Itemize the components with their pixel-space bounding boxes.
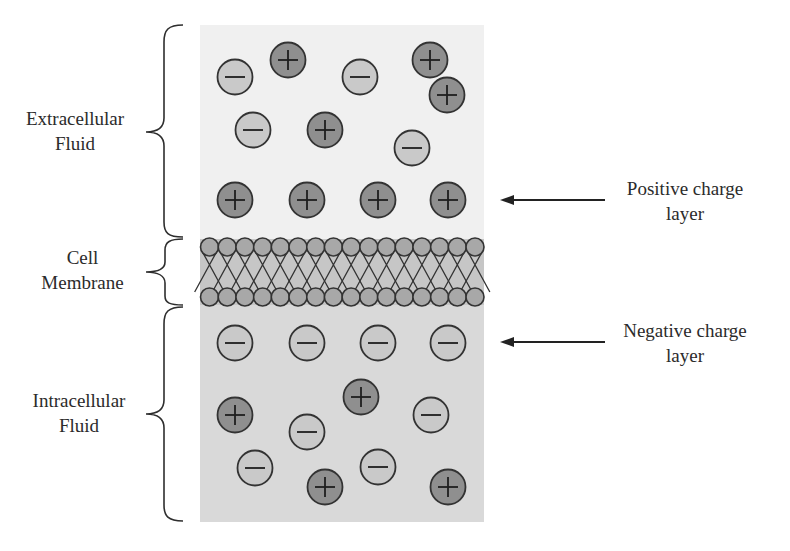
lipid-head-icon (413, 238, 431, 256)
positive-ion-icon (308, 470, 343, 505)
lipid-head-icon (307, 288, 325, 306)
lipid-head-icon (236, 238, 254, 256)
lipid-head-icon (271, 238, 289, 256)
lipid-head-icon (360, 238, 378, 256)
positive-ion-icon (413, 43, 448, 78)
label-line: layer (605, 343, 765, 368)
lipid-head-icon (378, 288, 396, 306)
negative-ion-icon (290, 326, 325, 361)
lipid-head-icon (324, 288, 342, 306)
label-line: layer (605, 201, 765, 226)
negative-ion-icon (238, 451, 273, 486)
lipid-head-icon (201, 238, 219, 256)
lipid-head-icon (271, 288, 289, 306)
negative-ion-icon (431, 326, 466, 361)
positive-ion-icon (218, 183, 253, 218)
lipid-head-icon (466, 238, 484, 256)
lipid-head-icon (289, 238, 307, 256)
lipid-head-icon (413, 288, 431, 306)
negative-ion-icon (414, 398, 449, 433)
membrane-brace-icon (146, 239, 183, 305)
lipid-head-icon (236, 288, 254, 306)
positive-ion-icon (431, 470, 466, 505)
lipid-head-icon (431, 238, 449, 256)
extracellular-brace-icon (146, 25, 183, 237)
label-line: Extracellular (10, 106, 140, 131)
lipid-head-icon (289, 288, 307, 306)
negative-ion-icon (395, 131, 430, 166)
lipid-head-icon (201, 288, 219, 306)
negative-ion-icon (343, 60, 378, 95)
negative-ion-icon (361, 326, 396, 361)
label-line: Intracellular (14, 388, 144, 413)
label-line: Fluid (14, 413, 144, 438)
label-line: Negative charge (605, 318, 765, 343)
lipid-head-icon (307, 238, 325, 256)
positive-layer-arrowhead-icon (500, 195, 514, 205)
lipid-head-icon (466, 288, 484, 306)
lipid-head-icon (254, 238, 272, 256)
lipid-head-icon (448, 288, 466, 306)
lipid-head-icon (254, 288, 272, 306)
negative-ion-icon (290, 415, 325, 450)
positive-ion-icon (344, 380, 379, 415)
label-line: Membrane (20, 270, 145, 295)
positive-ion-icon (430, 78, 465, 113)
lipid-head-icon (218, 288, 236, 306)
lipid-head-icon (395, 288, 413, 306)
lipid-head-icon (360, 288, 378, 306)
annotation-arrows (500, 195, 605, 347)
lipid-head-icon (395, 238, 413, 256)
positive-ion-icon (431, 183, 466, 218)
positive-ion-icon (361, 183, 396, 218)
lipid-head-icon (431, 288, 449, 306)
label-line: Cell (20, 245, 145, 270)
negative-layer-arrowhead-icon (500, 337, 514, 347)
cell-membrane-label: Cell Membrane (20, 245, 145, 295)
positive-ion-icon (218, 398, 253, 433)
negative-ion-icon (218, 326, 253, 361)
positive-ion-icon (308, 113, 343, 148)
label-line: Positive charge (605, 176, 765, 201)
positive-charge-layer-label: Positive charge layer (605, 176, 765, 226)
negative-ion-icon (361, 450, 396, 485)
lipid-head-icon (324, 238, 342, 256)
negative-ion-icon (236, 113, 271, 148)
lipid-head-icon (378, 238, 396, 256)
positive-ion-icon (290, 183, 325, 218)
extracellular-fluid-label: Extracellular Fluid (10, 106, 140, 156)
lipid-head-icon (342, 288, 360, 306)
label-line: Fluid (10, 131, 140, 156)
region-braces (146, 25, 183, 521)
negative-charge-layer-label: Negative charge layer (605, 318, 765, 368)
positive-ion-icon (271, 43, 306, 78)
lipid-head-icon (218, 238, 236, 256)
intracellular-brace-icon (146, 307, 183, 521)
negative-ion-icon (218, 60, 253, 95)
lipid-head-icon (448, 238, 466, 256)
intracellular-fluid-label: Intracellular Fluid (14, 388, 144, 438)
lipid-head-icon (342, 238, 360, 256)
